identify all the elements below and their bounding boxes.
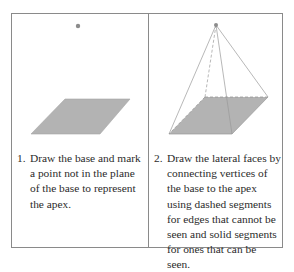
- panel-1-figure: [31, 24, 130, 134]
- step-1-text: Draw the base and mark a point not in th…: [17, 151, 145, 212]
- step-1-caption: 1. Draw the base and mark a point not in…: [17, 151, 145, 212]
- apex-point-1: [76, 24, 80, 28]
- base-parallelogram-1: [31, 99, 130, 134]
- panel-2-figure: [169, 23, 268, 134]
- base-parallelogram-2: [169, 97, 268, 134]
- step-2-number: 2.: [154, 151, 163, 166]
- step-1-number: 1.: [17, 151, 26, 166]
- lateral-edge-back-right: [216, 25, 268, 97]
- step-2-caption: 2. Draw the lateral faces by connecting …: [154, 151, 282, 272]
- apex-point-2: [214, 23, 218, 27]
- step-2-text: Draw the lateral faces by connecting ver…: [154, 151, 282, 272]
- lateral-edge-hidden: [205, 25, 216, 97]
